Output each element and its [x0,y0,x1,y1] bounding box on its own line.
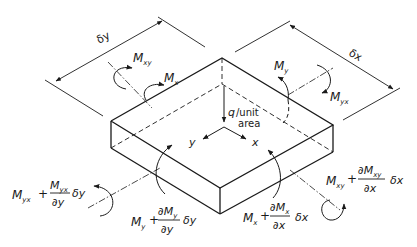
svg-text:∂y: ∂y [161,223,174,236]
moment-arcs [94,65,344,220]
svg-text:∂Mxy: ∂Mxy [358,164,382,179]
label-My-increment: My + ∂My ∂y δy [131,205,197,236]
y-axis-label: y [188,136,196,149]
label-Mxy: Mxy [133,51,153,67]
svg-text:Mxy: Mxy [326,174,346,190]
svg-text:∂x: ∂x [273,219,286,232]
svg-text:∂y: ∂y [52,196,65,209]
svg-text:Myx: Myx [12,188,32,204]
plate-element-diagram: δy δx q /unit area y x [0,0,417,247]
svg-text:δx: δx [295,211,309,224]
x-axis-label: x [251,136,259,149]
svg-text:∂Mx: ∂Mx [270,201,290,216]
svg-text:My: My [274,59,289,75]
y-axis-arrow [203,127,224,139]
svg-text:+: + [260,209,270,223]
svg-text:+: + [38,187,48,201]
svg-text:∂x: ∂x [364,182,377,195]
svg-text:δx: δx [390,174,404,187]
load-text-2: area [238,118,260,129]
svg-text:My: My [131,215,146,231]
plate-outline [111,58,333,214]
load-symbol: q [228,106,235,119]
svg-text:Myx: Myx [50,179,69,194]
svg-text:Mx: Mx [243,211,258,227]
svg-text:Mx: Mx [164,71,179,87]
svg-text:∂My: ∂My [158,205,178,220]
label-Mx: Mx [164,71,179,87]
dimension-dx [235,21,400,120]
label-Myx-increment: Myx + Myx ∂y δy [12,179,86,209]
svg-text:δy: δy [183,214,197,227]
label-Myx: Myx [330,90,350,106]
svg-text:+: + [347,172,357,186]
dimension-dy [45,17,205,116]
moment-axes [88,62,340,210]
svg-text:Myx: Myx [330,90,350,106]
svg-text:Mxy: Mxy [133,51,153,67]
svg-text:δy: δy [72,187,86,200]
dimension-dy-label: δy [94,29,112,47]
label-Mxy-increment: Mxy + ∂Mxy ∂x δx [326,164,404,195]
label-My: My [274,59,289,75]
label-Mx-increment: Mx + ∂Mx ∂x δx [243,201,309,232]
load-text-1: /unit [236,107,259,118]
